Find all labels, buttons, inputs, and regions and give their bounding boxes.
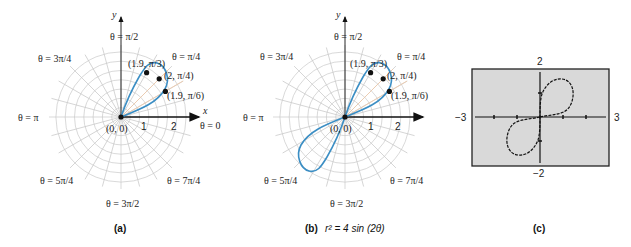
origin-point xyxy=(342,114,347,119)
ymin-label: −2 xyxy=(533,168,545,179)
angle-label-7pi-4: θ = 7π/4 xyxy=(390,175,423,186)
y-axis-label: y xyxy=(335,9,341,20)
angle-label-7pi-4: θ = 7π/4 xyxy=(167,175,200,186)
angle-label-0: θ = 0 xyxy=(200,120,220,131)
radial-tick-1: 1 xyxy=(141,121,147,132)
x-axis-label: x xyxy=(202,105,208,116)
panel-a xyxy=(49,17,199,189)
point-label-pi-3: (1.9, π/3) xyxy=(350,58,387,70)
point-label-pi-4: (2, π/4) xyxy=(164,70,194,82)
angle-label-3pi-4: θ = 3π/4 xyxy=(260,51,293,62)
ymax-label: 2 xyxy=(537,56,543,67)
point-pi-4 xyxy=(157,76,162,81)
angle-label-pi: θ = π xyxy=(243,112,263,123)
point-label-pi-6: (1.9, π/6) xyxy=(391,90,428,102)
equation-label: r² = 4 sin (2θ) xyxy=(325,223,385,234)
panel-a-labels: y x (0, 0) 1 2 θ = π/2 θ = 3π/4 θ = π/4 … xyxy=(18,9,220,234)
point-label-pi-6: (1.9, π/6) xyxy=(167,90,204,102)
angle-label-pi-4: θ = π/4 xyxy=(172,51,200,62)
angle-label-3pi-2: θ = 3π/2 xyxy=(330,198,363,209)
point-label-pi-4: (2, π/4) xyxy=(387,70,417,82)
radial-tick-2: 2 xyxy=(395,121,401,132)
xmax-label: 3 xyxy=(614,112,620,123)
figure-canvas: y x (0, 0) 1 2 θ = π/2 θ = 3π/4 θ = π/4 … xyxy=(0,0,631,247)
angle-label-3pi-2: θ = 3π/2 xyxy=(106,198,139,209)
point-pi-3 xyxy=(144,70,149,75)
origin-label: (0, 0) xyxy=(106,123,128,135)
angle-label-pi: θ = π xyxy=(18,112,38,123)
xmin-label: −3 xyxy=(455,112,467,123)
angle-label-pi-4: θ = π/4 xyxy=(397,51,425,62)
caption-c: (c) xyxy=(533,223,545,234)
angle-label-pi-2: θ = π/2 xyxy=(110,31,138,42)
y-axis-label: y xyxy=(111,9,117,20)
caption-b: (b) xyxy=(305,223,318,234)
panel-b xyxy=(273,17,423,189)
angle-label-5pi-4: θ = 5π/4 xyxy=(264,175,297,186)
panel-c: 2 −2 −3 3 (c) xyxy=(455,56,620,234)
radial-tick-1: 1 xyxy=(368,121,374,132)
origin-point xyxy=(118,114,123,119)
angle-label-5pi-4: θ = 5π/4 xyxy=(40,175,73,186)
angle-label-pi-2: θ = π/2 xyxy=(334,31,362,42)
angle-label-3pi-4: θ = 3π/4 xyxy=(38,53,71,64)
point-pi-3 xyxy=(368,70,373,75)
origin-label: (0, 0) xyxy=(330,123,352,135)
caption-a: (a) xyxy=(114,223,126,234)
point-pi-4 xyxy=(381,76,386,81)
radial-tick-2: 2 xyxy=(171,121,177,132)
point-label-pi-3: (1.9, π/3) xyxy=(128,58,165,70)
